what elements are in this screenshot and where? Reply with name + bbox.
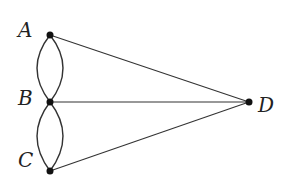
edge-c-d — [50, 102, 249, 171]
label-c: C — [18, 150, 33, 170]
edge-a-d — [50, 35, 249, 102]
node-c — [47, 168, 54, 175]
graph-diagram: A B C D — [0, 0, 293, 180]
edge-b-c-left — [37, 102, 50, 171]
node-a — [47, 32, 54, 39]
edge-b-c-right — [50, 102, 63, 171]
node-d — [246, 99, 253, 106]
label-d: D — [258, 95, 274, 115]
edge-a-b-left — [37, 35, 50, 102]
graph-svg — [0, 0, 293, 180]
label-a: A — [18, 20, 32, 40]
label-b: B — [18, 88, 33, 108]
node-b — [47, 99, 54, 106]
edge-a-b-right — [50, 35, 63, 102]
